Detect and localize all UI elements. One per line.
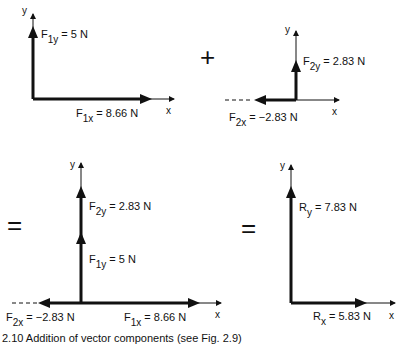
symbol: F [229, 111, 236, 123]
value: = 2.83 N [106, 200, 151, 212]
panel-2-x-axis-label: x [332, 107, 337, 117]
value: = 5 N [106, 253, 136, 265]
symbol: F [124, 311, 131, 323]
subscript: 2y [310, 61, 321, 72]
subscript: 1y [96, 259, 107, 270]
symbol: F [41, 28, 48, 40]
panel-1-axes [33, 14, 174, 99]
equals-operator-2: = [241, 215, 256, 241]
subscript: 1x [131, 317, 142, 328]
panel-3-f1y-label: F1y = 5 N [89, 254, 136, 270]
plus-operator: + [200, 44, 215, 70]
symbol: F [303, 55, 310, 67]
panel-2-f2x-label: F2x = −2.83 N [229, 112, 298, 128]
value: = 8.66 N [93, 107, 138, 119]
panel-3-x-axis-label: x [215, 310, 220, 320]
panel-2-vectors [254, 60, 301, 105]
subscript: 1x [83, 113, 94, 124]
value: = −2.83 N [246, 111, 297, 123]
value: = 2.83 N [320, 55, 365, 67]
panel-3-f1x-label: F1x = 8.66 N [124, 312, 186, 328]
symbol: R [299, 201, 307, 213]
value: = 5 N [58, 28, 88, 40]
subscript: 1y [48, 34, 59, 45]
value: = 8.66 N [141, 311, 186, 323]
symbol: F [89, 200, 96, 212]
subscript: 2x [13, 317, 24, 328]
panel-3-f2y-label: F2y = 2.83 N [89, 201, 151, 217]
panel-2-f2y-label: F2y = 2.83 N [303, 56, 365, 72]
panel-1-f1x-label: F1x = 8.66 N [76, 108, 138, 124]
panel-4-axes [291, 165, 395, 303]
value: = −2.83 N [23, 311, 74, 323]
panel-4-rx-label: Rx = 5.83 N [313, 311, 371, 327]
symbol: F [6, 311, 13, 323]
symbol: F [89, 253, 96, 265]
value: = 5.83 N [326, 310, 371, 322]
panel-4-y-axis-label: y [280, 161, 285, 171]
panel-3-y-axis-label: y [70, 160, 75, 170]
panel-2-y-axis-label: y [285, 25, 290, 35]
panel-3-f2x-label: F2x = −2.83 N [6, 312, 75, 328]
value: = 7.83 N [312, 201, 357, 213]
subscript: 2x [236, 117, 247, 128]
panel-1-y-axis-label: y [22, 6, 27, 16]
symbol: F [76, 107, 83, 119]
figure-caption: 2.10 Addition of vector components (see … [2, 333, 242, 344]
equals-operator-1: = [7, 212, 22, 238]
panel-3-axes [12, 163, 221, 303]
panel-4-ry-label: Ry = 7.83 N [299, 202, 357, 218]
panel-4-x-axis-label: x [389, 311, 394, 321]
symbol: R [313, 310, 321, 322]
subscript: 2y [96, 206, 107, 217]
panel-1-x-axis-label: x [166, 106, 171, 116]
panel-1-f1y-label: F1y = 5 N [41, 29, 88, 45]
